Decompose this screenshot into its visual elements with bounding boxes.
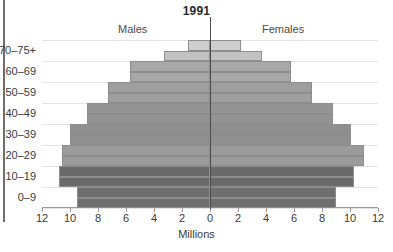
chart-title: 1991 (0, 4, 393, 18)
x-axis: 12108642024681012 (42, 208, 378, 226)
bar-females (210, 177, 354, 188)
bar-females (210, 198, 336, 209)
plot-area (42, 40, 378, 208)
bar-females (210, 156, 364, 167)
x-axis-tick-label: 12 (372, 212, 384, 224)
bar-females (210, 145, 364, 156)
bar-males (62, 145, 210, 156)
x-axis-tick-label: 6 (291, 212, 297, 224)
y-axis-tick-label: 10–19 (5, 170, 36, 182)
bar-females (210, 124, 351, 135)
bar-females (210, 187, 336, 198)
legend-label-males: Males (118, 23, 147, 35)
x-axis-tick-label: 2 (235, 212, 241, 224)
bar-females (210, 135, 351, 146)
bar-males (59, 166, 210, 177)
bar-females (210, 40, 241, 51)
y-axis-tick-label: 20–29 (5, 149, 36, 161)
y-axis-tick-label: 70–75+ (0, 44, 36, 56)
bar-males (62, 156, 210, 167)
bar-males (70, 124, 210, 135)
bar-females (210, 103, 333, 114)
x-axis-tick-label: 12 (36, 212, 48, 224)
bar-females (210, 82, 312, 93)
x-axis-tick-label: 2 (179, 212, 185, 224)
legend-label-females: Females (262, 23, 304, 35)
bar-males (77, 187, 210, 198)
bar-females (210, 61, 291, 72)
x-axis-tick-label: 4 (151, 212, 157, 224)
x-axis-tick-label: 10 (344, 212, 356, 224)
bar-males (108, 82, 210, 93)
bar-females (210, 51, 262, 62)
bar-males (87, 114, 210, 125)
y-axis-tick-label: 0–9 (18, 191, 36, 203)
bar-males (87, 103, 210, 114)
x-axis-tick-label: 10 (64, 212, 76, 224)
x-axis-tick-label: 8 (95, 212, 101, 224)
bar-males (164, 51, 210, 62)
x-axis-tick-label: 4 (263, 212, 269, 224)
bar-females (210, 166, 354, 177)
bar-males (77, 198, 210, 209)
y-axis-tick-label: 50–59 (5, 86, 36, 98)
y-axis-tick-label: 30–39 (5, 128, 36, 140)
zero-center-line (210, 17, 211, 209)
bar-females (210, 72, 291, 83)
bar-females (210, 93, 312, 104)
bar-males (59, 177, 210, 188)
y-axis-tick-label: 40–49 (5, 107, 36, 119)
bar-males (130, 72, 210, 83)
population-pyramid-chart: 1991 Males Females 0–910–1920–2930–3940–… (0, 0, 393, 252)
y-axis-tick-label: 60–69 (5, 65, 36, 77)
bar-males (130, 61, 210, 72)
x-axis-tick-label: 6 (123, 212, 129, 224)
bar-females (210, 114, 333, 125)
x-axis-tick-label: 0 (207, 212, 213, 224)
bar-males (108, 93, 210, 104)
x-axis-tick-label: 8 (319, 212, 325, 224)
x-axis-title: Millions (0, 228, 393, 240)
bar-males (188, 40, 210, 51)
bar-males (70, 135, 210, 146)
y-axis-labels: 0–910–1920–2930–3940–4950–5960–6970–75+ (0, 40, 36, 208)
